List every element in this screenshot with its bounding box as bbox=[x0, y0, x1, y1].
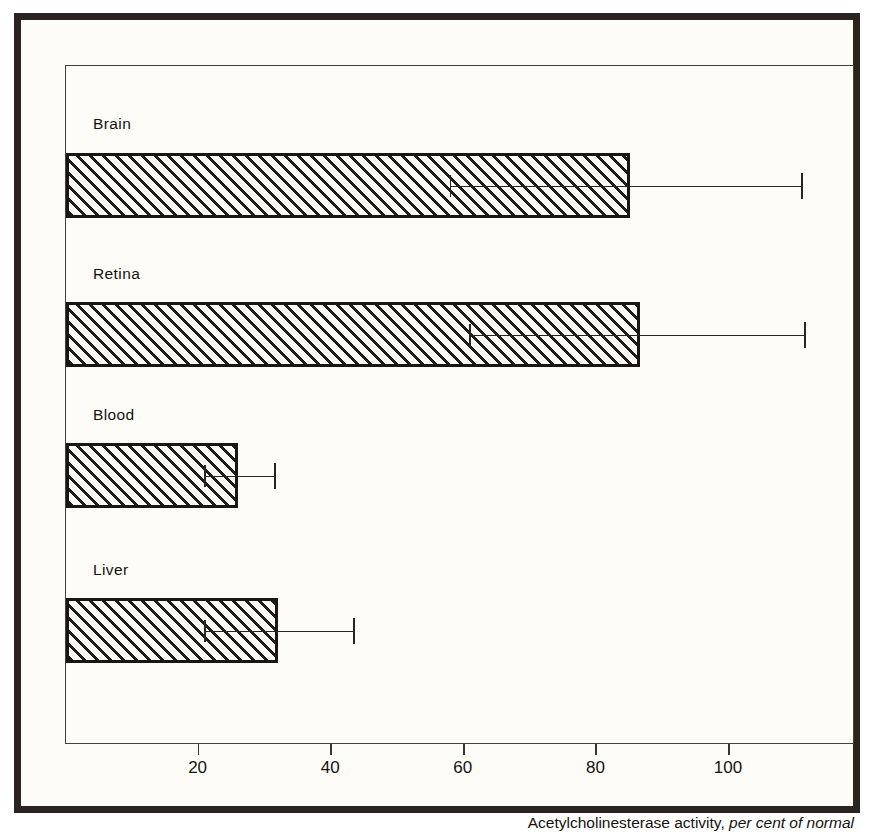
x-tick-label-40: 40 bbox=[321, 758, 340, 778]
x-axis-title: Acetylcholinesterase activity, per cent … bbox=[528, 814, 854, 832]
error-bar-line bbox=[204, 631, 353, 633]
x-tick-100 bbox=[728, 744, 730, 755]
x-tick-label-100: 100 bbox=[714, 758, 742, 778]
figure-outer-border: BrainRetinaBloodLiver 20406080100 Acetyl… bbox=[14, 13, 860, 813]
error-bar-cap-high bbox=[353, 618, 355, 644]
error-bar-cap-low bbox=[450, 175, 452, 197]
x-tick-60 bbox=[463, 744, 465, 755]
bar-label-blood: Blood bbox=[93, 406, 135, 424]
x-tick-label-80: 80 bbox=[586, 758, 605, 778]
error-bar-cap-high bbox=[801, 173, 803, 199]
x-tick-40 bbox=[330, 744, 332, 755]
x-tick-20 bbox=[198, 744, 200, 755]
x-axis-title-plain: Acetylcholinesterase activity, bbox=[528, 814, 725, 831]
error-bar-line bbox=[450, 186, 801, 188]
bar-label-retina: Retina bbox=[93, 265, 140, 283]
x-tick-80 bbox=[595, 744, 597, 755]
error-bar-cap-high bbox=[804, 322, 806, 348]
error-bar-cap-low bbox=[204, 620, 206, 642]
x-tick-label-20: 20 bbox=[188, 758, 207, 778]
error-bar-cap-high bbox=[274, 463, 276, 489]
bar-label-liver: Liver bbox=[93, 561, 129, 579]
bar-label-brain: Brain bbox=[93, 115, 131, 133]
plot-area: BrainRetinaBloodLiver 20406080100 Acetyl… bbox=[65, 65, 854, 744]
figure: BrainRetinaBloodLiver 20406080100 Acetyl… bbox=[0, 0, 875, 834]
error-bar-cap-low bbox=[469, 324, 471, 346]
error-bar-line bbox=[469, 335, 804, 337]
error-bar-cap-low bbox=[204, 465, 206, 487]
x-axis-title-italic: per cent of normal bbox=[725, 814, 854, 831]
error-bar-line bbox=[204, 476, 274, 478]
x-tick-label-60: 60 bbox=[453, 758, 472, 778]
